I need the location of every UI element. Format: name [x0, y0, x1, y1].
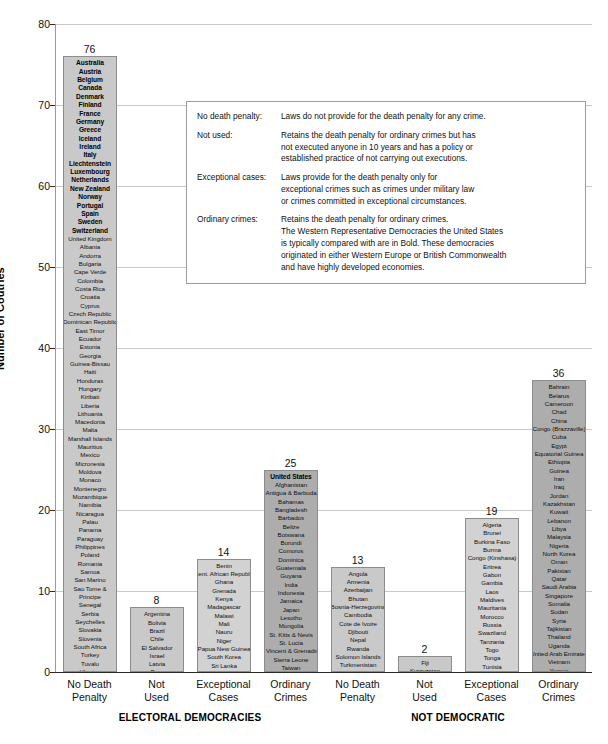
country-label: Sao Tome & [73, 585, 106, 593]
x-axis-line [55, 672, 592, 673]
country-label: Algeria [483, 521, 502, 529]
country-label: Finland [78, 101, 101, 109]
legend-definition: Retains the death penalty for ordinary c… [281, 130, 575, 165]
bar-country-list: United StatesAfghanistanAntigua & Barbud… [265, 471, 317, 673]
country-label: El Salvador [141, 644, 172, 652]
country-label: Djibouti [348, 628, 368, 636]
country-label: Taiwan [282, 664, 301, 672]
country-label: Kuwait [550, 508, 568, 516]
country-label: Nepal [350, 636, 366, 644]
country-label: Zambia [482, 671, 502, 672]
country-label: Bolivia [148, 619, 166, 627]
country-label: Tonga [484, 654, 501, 662]
country-label: Georgia [79, 352, 101, 360]
country-label: Swaziland [478, 629, 506, 637]
legend-term: No death penalty: [197, 111, 281, 123]
y-axis-title: Number of Coutries [0, 267, 6, 370]
country-label: Kenya [215, 595, 232, 603]
country-label: Syria [552, 617, 566, 625]
country-label: Dominica [278, 556, 303, 564]
country-label: Nicaragua [76, 510, 104, 518]
country-label: United States [270, 473, 312, 481]
legend-definition-line: or crimes committed in exceptional circu… [281, 196, 575, 208]
legend-row-2: Exceptional cases:Laws provide for the d… [197, 172, 575, 207]
country-label: Mongolia [279, 622, 304, 630]
country-label: Barbados [278, 514, 304, 522]
country-label: Romania [78, 560, 102, 568]
country-label: Estonia [80, 343, 100, 351]
country-label: Hungary [78, 385, 101, 393]
country-label: Morocco [480, 613, 503, 621]
country-label: Panama [79, 526, 102, 534]
country-label: Mali [218, 620, 229, 628]
country-label: Cambodia [344, 611, 372, 619]
y-tick-label-0: 0 [24, 667, 50, 678]
bar-value-label-5: 2 [395, 643, 455, 655]
country-label: Fiji [421, 659, 429, 667]
country-label: Honduras [77, 377, 103, 385]
country-label: Lebanon [547, 517, 571, 525]
country-label: Bulgaria [79, 260, 101, 268]
country-label: Iran [554, 475, 564, 483]
group-label-0: ELECTORAL DEMOCRACIES [80, 712, 300, 723]
country-label: Uzbekistan [343, 670, 373, 672]
country-label: Antigua & Barbuda [265, 489, 316, 497]
country-label: Liberia [81, 402, 99, 410]
country-label: Saudi Arabia [542, 583, 577, 591]
group-label-1: NOT DEMOCRATIC [348, 712, 568, 723]
country-label: Japan [283, 606, 300, 614]
legend-definition: Retains the death penalty for ordinary c… [281, 214, 575, 273]
country-label: Angola [349, 570, 368, 578]
country-label: St. Kitts & Nevis [269, 631, 313, 639]
country-label: Brunei [483, 529, 501, 537]
legend-definition: Laws do not provide for the death penalt… [281, 111, 575, 123]
country-label: Sudan [550, 608, 568, 616]
country-label: Azerbaijan [344, 586, 373, 594]
country-label: Russia [483, 621, 502, 629]
country-label: Micronesia [75, 460, 104, 468]
legend-definition-line: Retains the death penalty for ordinary c… [281, 130, 575, 142]
country-label: Kyrgyzstan [410, 667, 440, 672]
y-tick-label-80: 80 [24, 19, 50, 30]
bar-country-list: BahrainBelarusCameroonChadChinaCongo (Br… [533, 381, 585, 672]
country-label: Moldova [78, 468, 101, 476]
definitions-legend-box: No death penalty:Laws do not provide for… [186, 101, 586, 284]
country-label: Turkmenistan [340, 661, 377, 669]
country-label: North Korea [543, 550, 576, 558]
country-label: Spain [81, 210, 99, 218]
country-label: Ukraine [80, 668, 101, 672]
country-label: Cyprus [80, 302, 99, 310]
country-label: Cameroon [545, 400, 574, 408]
country-label: South Korea [207, 653, 241, 661]
country-label: Luxembourg [70, 168, 109, 176]
country-label: India [284, 581, 297, 589]
country-label: Serbia [81, 610, 99, 618]
country-label: Belgium [77, 76, 103, 84]
country-label: San Marino [74, 576, 105, 584]
country-label: Mauritius [78, 443, 103, 451]
country-label: Ghana [215, 578, 233, 586]
bar-7: BahrainBelarusCameroonChadChinaCongo (Br… [532, 380, 586, 672]
country-label: Tuvalu [81, 660, 99, 668]
bar-2: BeninCent. African RepublicGhanaGrenadaK… [197, 559, 251, 672]
country-label: Somalia [548, 600, 570, 608]
country-label: Bosnia-Herzegovina [331, 603, 385, 611]
country-label: Malaysia [547, 533, 571, 541]
country-label: Germany [76, 118, 104, 126]
bar-country-list: AustraliaAustriaBelgiumCanadaDenmarkFinl… [64, 57, 116, 672]
country-label: Denmark [76, 93, 104, 101]
country-label: East Timor [75, 327, 104, 335]
country-label: Montenegro [74, 485, 107, 493]
country-label: Brazil [149, 627, 164, 635]
legend-definition-line: established practice of not carrying out… [281, 153, 575, 165]
bar-value-label-2: 14 [194, 546, 254, 558]
country-label: United Arab Emirates [532, 650, 586, 658]
country-label: Vietnam [548, 658, 570, 666]
bar-value-label-7: 36 [529, 367, 589, 379]
country-label: Netherlands [71, 176, 109, 184]
gridline-30 [56, 429, 592, 430]
country-label: Lithuania [78, 410, 103, 418]
country-label: Jordan [550, 492, 569, 500]
country-label: Portugal [77, 202, 103, 210]
country-label: Belarus [549, 392, 570, 400]
